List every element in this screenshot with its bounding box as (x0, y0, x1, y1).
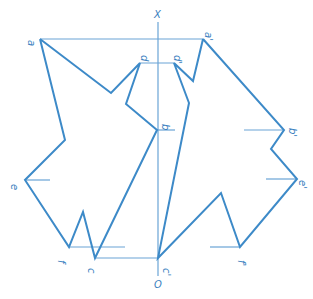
point-label-b2: b' (287, 128, 298, 137)
point-label-f2: f' (236, 260, 247, 266)
point-label-d2: d' (172, 55, 183, 64)
right-figure (158, 39, 297, 258)
left-figure (25, 39, 157, 258)
point-label-a: a (26, 40, 37, 46)
point-label-f: f (56, 260, 67, 265)
point-label-a2: a' (203, 32, 214, 41)
point-label-c2: c' (161, 268, 172, 276)
axis-label-x: X (153, 9, 162, 20)
construction-lines (25, 39, 297, 258)
point-label-b: b (160, 124, 171, 130)
point-label-c: c (86, 268, 97, 274)
point-label-e2: e' (297, 180, 308, 189)
point-label-d: d (139, 55, 150, 62)
figures (25, 39, 297, 258)
point-label-e: e (9, 184, 20, 190)
axis-label-o: O (154, 279, 162, 290)
projection-diagram: XO adbefca'd'b'e'f'c' (0, 0, 313, 299)
